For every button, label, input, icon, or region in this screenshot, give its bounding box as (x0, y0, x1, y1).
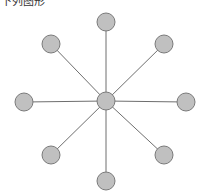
edge-top-left (51, 44, 106, 101)
edge-left (24, 101, 106, 102)
node-left (15, 93, 33, 111)
edge-bottom-right (106, 101, 164, 155)
node-bottom (97, 172, 115, 190)
edge-right (106, 101, 186, 102)
edge-top-right (106, 44, 164, 101)
node-top (97, 13, 115, 31)
node-center (97, 92, 115, 110)
node-right (177, 93, 195, 111)
edge-bottom-left (51, 101, 106, 155)
star-graph (0, 0, 205, 193)
node-top-right (155, 35, 173, 53)
node-top-left (42, 35, 60, 53)
node-bottom-right (155, 146, 173, 164)
node-bottom-left (42, 146, 60, 164)
